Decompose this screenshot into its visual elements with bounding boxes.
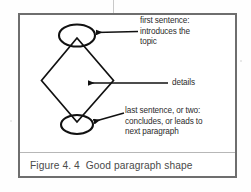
scan-artifact-vertical-rule (113, 0, 114, 14)
scanned-page: first sentence: introduces the topic det… (0, 0, 251, 192)
annotation-last-sentence: last sentence, or two: concludes, or lea… (125, 106, 233, 138)
annotation-details: details (172, 78, 232, 89)
annotation-first-sentence: first sentence: introduces the topic (140, 16, 232, 48)
scan-artifact-speck (10, 120, 12, 122)
scan-artifact-speck (240, 60, 242, 62)
caption-separator (20, 152, 235, 153)
figure-caption: Figure 4. 4 Good paragraph shape (30, 159, 230, 172)
